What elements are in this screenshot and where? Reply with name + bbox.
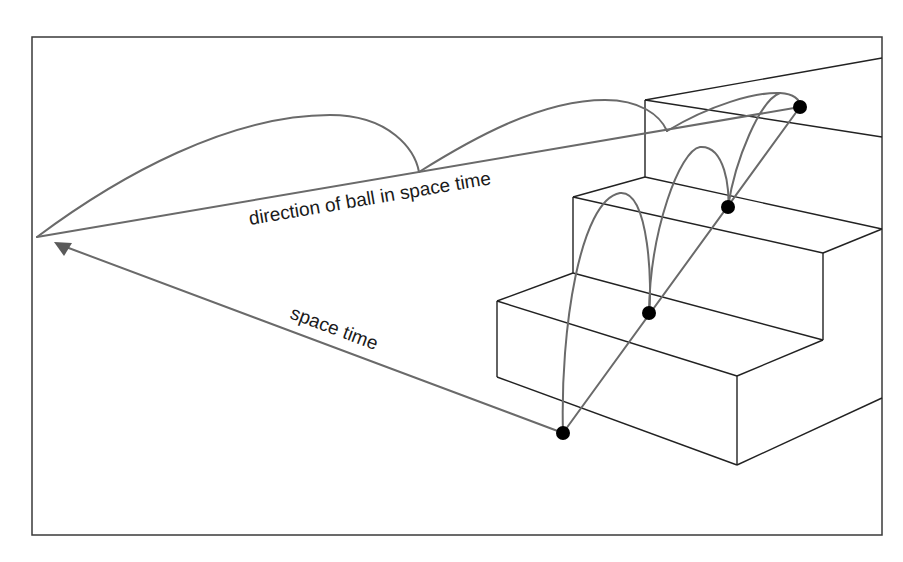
- projected-arc-1: [37, 115, 419, 237]
- ball-1: [556, 426, 570, 440]
- step1-tread-left: [497, 273, 573, 301]
- direction-label: direction of ball in space time: [247, 167, 492, 229]
- step2-tread-front: [573, 197, 823, 253]
- space-time-diagram: direction of ball in space time space ti…: [0, 0, 903, 562]
- step2-tread-right: [823, 229, 882, 253]
- step1-tread-right: [737, 340, 823, 376]
- step1-tread-front: [497, 301, 737, 376]
- ball-step-line: [563, 107, 800, 433]
- step2-tread-left: [573, 177, 645, 197]
- space-time-label: space time: [288, 302, 381, 354]
- top-landing-front-edge: [645, 100, 882, 137]
- ball-4: [793, 100, 807, 114]
- diagram-frame: [32, 37, 882, 535]
- ball-2: [642, 306, 656, 320]
- bounce-arc-2: [649, 147, 728, 313]
- bounce-arc-3: [728, 93, 780, 207]
- floor-right-edge: [737, 398, 882, 465]
- space-time-arrow-shaft: [66, 247, 563, 433]
- bounce-arc-1: [563, 193, 650, 433]
- ball-3: [721, 200, 735, 214]
- step1-tread-back: [573, 273, 823, 340]
- space-time-arrow: [54, 242, 563, 433]
